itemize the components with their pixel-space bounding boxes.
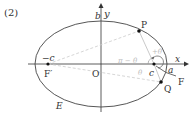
angle-theta-label: θ <box>138 69 143 77</box>
origin-label: O <box>92 69 99 79</box>
x-axis-arrow <box>184 62 189 67</box>
c-label: c <box>149 68 154 78</box>
line-fprime-q <box>48 64 161 82</box>
fprime-label: F′ <box>44 69 52 79</box>
b-label: b <box>95 11 101 21</box>
x-axis-label: x <box>175 54 180 64</box>
angle-arc-pi-minus-theta <box>148 59 151 65</box>
ellipse-diagram: (2) y b x O −c F′ c a F P Q E π − θ +θ θ <box>0 0 193 116</box>
y-axis-label: y <box>103 8 110 19</box>
point-f <box>152 62 155 65</box>
angle-pi-minus-theta-label: π − θ <box>117 57 138 65</box>
p-label: P <box>141 20 147 30</box>
angle-plus-theta-label: +θ <box>152 48 163 56</box>
neg-c-label: −c <box>42 53 55 63</box>
point-q <box>159 80 163 84</box>
ellipse-label: E <box>55 101 63 111</box>
q-label: Q <box>164 84 171 94</box>
problem-number: (2) <box>4 7 18 18</box>
y-axis-arrow <box>99 3 104 8</box>
f-label: F <box>178 77 184 87</box>
a-label: a <box>168 65 173 75</box>
